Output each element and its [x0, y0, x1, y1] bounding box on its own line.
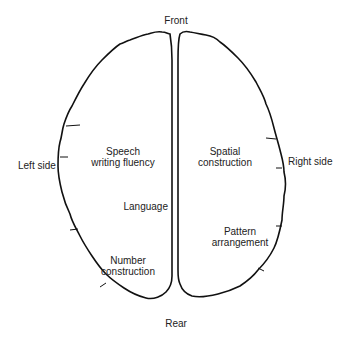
speech-label-line2: writing fluency [76, 157, 170, 168]
pattern-label-line1: Pattern [206, 226, 274, 237]
sulcus-tick [100, 283, 106, 287]
language-label: Language [112, 201, 168, 212]
spatial-label-line1: Spatial [186, 146, 264, 157]
speech-label: Speech writing fluency [76, 146, 170, 168]
pattern-label-line2: arrangement [206, 237, 274, 248]
spatial-label-line2: construction [186, 157, 264, 168]
front-label: Front [156, 15, 196, 26]
number-label: Number construction [86, 255, 170, 277]
number-label-line1: Number [86, 255, 170, 266]
brain-outline [0, 0, 352, 343]
pattern-label: Pattern arrangement [206, 226, 274, 248]
speech-label-line1: Speech [76, 146, 170, 157]
rear-label: Rear [156, 318, 196, 329]
spatial-label: Spatial construction [186, 146, 264, 168]
left-side-label: Left side [18, 160, 56, 171]
language-label-line1: Language [112, 201, 168, 212]
number-label-line2: construction [86, 266, 170, 277]
brain-hemispheres-diagram: Front Rear Left side Right side Speech w… [0, 0, 352, 343]
right-side-label: Right side [288, 156, 332, 167]
